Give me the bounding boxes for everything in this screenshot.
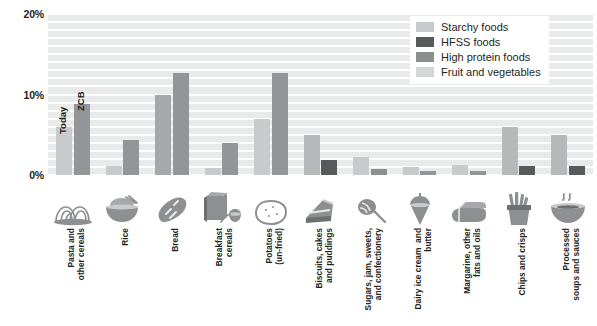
bar-today xyxy=(254,119,270,175)
bar-today xyxy=(155,95,171,176)
bar-zcb xyxy=(420,171,436,175)
x-axis-label: Pasta and other cereals xyxy=(67,228,87,322)
legend-swatch-hfss xyxy=(416,37,434,47)
bar-today xyxy=(353,157,369,175)
x-axis-label: Bread xyxy=(171,228,181,322)
x-axis-label: Dairy ice cream and butter xyxy=(414,228,434,322)
bar-group xyxy=(353,14,387,175)
bar-zcb xyxy=(173,73,189,175)
bar-zcb xyxy=(371,169,387,175)
bar-annotation-zcb: ZCB xyxy=(75,92,86,112)
legend-label: High protein foods xyxy=(441,52,530,63)
x-axis-label: Biscuits, cakes and puddings xyxy=(315,228,335,322)
bar-zcb xyxy=(519,166,535,175)
bar-today xyxy=(205,168,221,175)
x-axis-labels: Pasta and other cerealsRiceBreadBreakfas… xyxy=(48,228,593,324)
legend-swatch-starchy xyxy=(416,22,434,32)
y-axis-tick: 0% xyxy=(4,169,44,181)
lollipop-icon xyxy=(345,178,395,226)
pasta-icon xyxy=(48,178,98,226)
potato-icon xyxy=(246,178,296,226)
bar-group xyxy=(106,14,140,175)
bar-group xyxy=(254,14,288,175)
chart-figure: 0%10%20% TodayZCB Starchy foodsHFSS food… xyxy=(0,0,597,326)
bar-today xyxy=(106,166,122,175)
bar-zcb xyxy=(470,171,486,175)
bar-zcb xyxy=(569,166,585,175)
legend-item: High protein foods xyxy=(416,50,541,64)
category-icons-row xyxy=(48,178,593,226)
x-axis-label: Margarine, other fats and oils xyxy=(463,228,483,322)
bar-annotation-today: Today xyxy=(57,106,68,133)
legend-swatch-protein xyxy=(416,52,434,62)
fries-icon xyxy=(494,178,544,226)
bar-today xyxy=(304,135,320,175)
legend-item: Starchy foods xyxy=(416,20,541,34)
y-axis-tick: 20% xyxy=(4,8,44,20)
soup-bowl-icon xyxy=(543,178,593,226)
x-axis-label: Processed soups and sauces xyxy=(562,228,582,322)
y-axis: 0%10%20% xyxy=(0,0,44,326)
bar-zcb xyxy=(222,143,238,175)
chart-legend: Starchy foodsHFSS foodsHigh protein food… xyxy=(410,16,549,84)
bar-today xyxy=(452,165,468,175)
bar-today xyxy=(403,167,419,175)
legend-swatch-fruit xyxy=(416,67,434,77)
rice-bowl-icon xyxy=(98,178,148,226)
bar-group xyxy=(551,14,585,175)
bar-zcb xyxy=(272,73,288,175)
x-axis-label: Breakfast cereals xyxy=(215,228,235,322)
x-axis-label: Potatoes (un-fried) xyxy=(265,228,285,322)
y-axis-tick: 10% xyxy=(4,89,44,101)
x-axis-label: Sugars, jam, sweets, and confectionery xyxy=(364,228,384,322)
legend-item: Fruit and vegetables xyxy=(416,65,541,79)
x-axis-label: Chips and crisps xyxy=(518,228,528,322)
butter-block-icon xyxy=(444,178,494,226)
legend-label: Fruit and vegetables xyxy=(441,67,541,78)
bar-zcb xyxy=(74,104,90,175)
bread-icon xyxy=(147,178,197,226)
bar-group xyxy=(155,14,189,175)
cake-slice-icon xyxy=(296,178,346,226)
bar-group xyxy=(205,14,239,175)
bar-group xyxy=(304,14,338,175)
legend-label: Starchy foods xyxy=(441,22,508,33)
cereal-box-icon xyxy=(197,178,247,226)
bar-zcb xyxy=(321,160,337,175)
bar-zcb xyxy=(123,140,139,175)
legend-label: HFSS foods xyxy=(441,37,500,48)
legend-item: HFSS foods xyxy=(416,35,541,49)
ice-cream-cone-icon xyxy=(395,178,445,226)
x-axis-label: Rice xyxy=(121,228,131,322)
bar-today xyxy=(502,127,518,175)
bar-today xyxy=(551,135,567,175)
